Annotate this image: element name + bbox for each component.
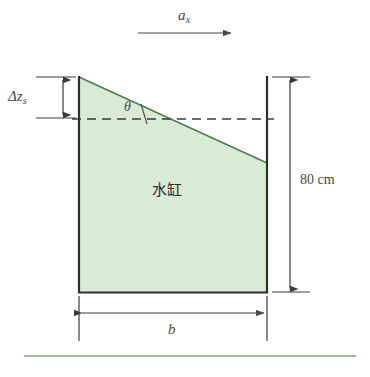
delta-z-subscript: s bbox=[23, 95, 27, 106]
width-dimension-label: b bbox=[168, 322, 176, 337]
figure-container: ax Δzs θ 80 cm b 水缸 bbox=[0, 0, 370, 377]
delta-z-symbol: Δz bbox=[8, 88, 23, 104]
tank-caption-label: 水缸 bbox=[152, 183, 182, 198]
acceleration-subscript: x bbox=[186, 14, 191, 25]
acceleration-label: ax bbox=[178, 8, 190, 25]
theta-angle-label: θ bbox=[124, 100, 131, 114]
tank-diagram-svg bbox=[0, 0, 370, 377]
delta-z-label: Δzs bbox=[8, 89, 27, 106]
acceleration-symbol: a bbox=[178, 7, 186, 23]
height-dimension-label: 80 cm bbox=[300, 173, 335, 187]
